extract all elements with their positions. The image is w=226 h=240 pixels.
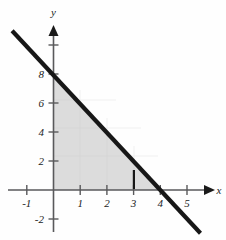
graph-figure: -1 1 2 3 4 5 8 6 4 2 -2 y x bbox=[0, 0, 226, 240]
coordinate-plane-svg: -1 1 2 3 4 5 8 6 4 2 -2 y x bbox=[0, 0, 226, 240]
x-tick-label-5: 5 bbox=[184, 197, 190, 209]
y-tick-label-neg2: -2 bbox=[35, 213, 45, 225]
x-tick-label-4: 4 bbox=[158, 197, 164, 209]
y-tick-label-2: 2 bbox=[39, 155, 45, 167]
y-axis-label: y bbox=[50, 6, 56, 18]
x-tick-label-neg1: -1 bbox=[22, 197, 31, 209]
y-axis-arrow-icon bbox=[49, 25, 59, 36]
y-tick-label-8: 8 bbox=[39, 68, 45, 80]
x-tick-label-3: 3 bbox=[130, 197, 137, 209]
y-tick-label-4: 4 bbox=[39, 126, 45, 138]
y-tick-label-6: 6 bbox=[39, 97, 45, 109]
x-tick-label-1: 1 bbox=[77, 197, 83, 209]
x-axis-arrow-icon bbox=[204, 185, 215, 195]
x-axis-label: x bbox=[216, 184, 222, 196]
x-tick-label-2: 2 bbox=[104, 197, 110, 209]
